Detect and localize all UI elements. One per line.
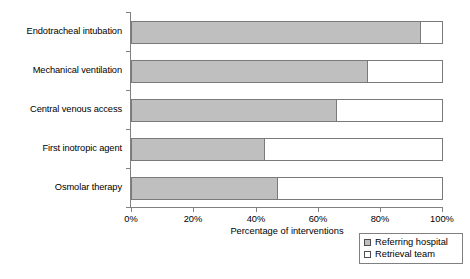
bar-segment-referring-hospital	[131, 60, 368, 83]
bar-segment-referring-hospital	[131, 177, 278, 200]
plot-area: 0% 20% 40% 60% 80% 100%	[131, 12, 443, 208]
bar-segment-referring-hospital	[131, 138, 265, 161]
x-axis-tick	[193, 207, 194, 212]
x-axis-tick	[380, 207, 381, 212]
x-axis-tick-label: 20%	[168, 214, 218, 225]
x-axis-tick-label: 80%	[355, 214, 405, 225]
legend-label: Referring hospital	[375, 236, 448, 248]
white-square-icon	[364, 251, 371, 258]
bar-segment-referring-hospital	[131, 99, 337, 122]
x-axis-tick	[131, 207, 132, 212]
x-axis-tick	[442, 207, 443, 212]
category-axis-labels: Endotracheal intubation Mechanical venti…	[0, 10, 127, 205]
bar-row	[131, 60, 443, 83]
bar-row	[131, 99, 443, 122]
category-label-first-inotropic-agent: First inotropic agent	[0, 143, 122, 154]
legend-label: Retrieval team	[375, 248, 435, 260]
x-axis-tick-label: 60%	[293, 214, 343, 225]
category-label-osmolar-therapy: Osmolar therapy	[0, 182, 122, 193]
x-axis-tick-label: 0%	[106, 214, 156, 225]
x-axis-tick	[256, 207, 257, 212]
x-axis-tick-label: 40%	[231, 214, 281, 225]
bar-segment-referring-hospital	[131, 21, 421, 44]
x-axis-tick	[318, 207, 319, 212]
legend-item-referring-hospital: Referring hospital	[364, 236, 458, 248]
y-axis-tick	[126, 168, 131, 169]
gray-square-icon	[364, 239, 371, 246]
y-axis-tick	[126, 51, 131, 52]
x-axis-tick-label: 100%	[417, 214, 467, 225]
y-axis-tick	[126, 90, 131, 91]
x-axis-line	[130, 207, 443, 208]
legend-item-retrieval-team: Retrieval team	[364, 248, 458, 260]
bar-row	[131, 21, 443, 44]
bar-row	[131, 138, 443, 161]
category-label-central-venous-access: Central venous access	[0, 104, 122, 115]
chart-legend: Referring hospital Retrieval team	[359, 233, 463, 264]
bar-row	[131, 177, 443, 200]
y-axis-tick	[126, 129, 131, 130]
chart-figure: Endotracheal intubation Mechanical venti…	[0, 0, 470, 279]
category-label-endotracheal-intubation: Endotracheal intubation	[0, 26, 122, 37]
y-axis-tick	[126, 12, 131, 13]
category-label-mechanical-ventilation: Mechanical ventilation	[0, 65, 122, 76]
